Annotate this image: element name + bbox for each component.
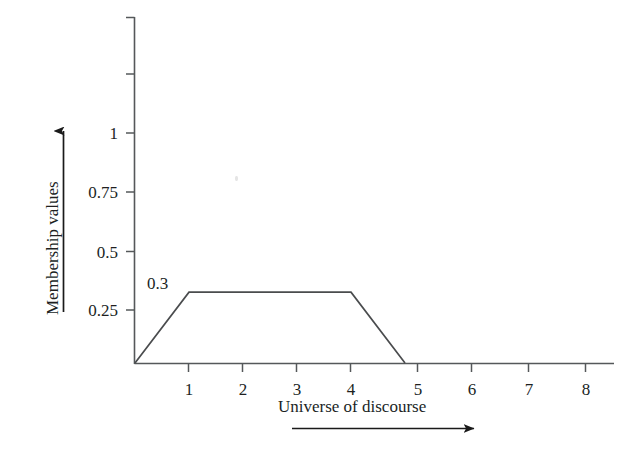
y-axis-ticks [126,18,135,311]
x-tick-label-3: 3 [293,381,302,398]
y-tick-label-0-75: 0.75 [74,184,118,201]
x-axis-ticks [189,364,586,373]
chart-canvas [0,0,644,457]
y-tick-label-0-5: 0.5 [82,244,118,261]
x-tick-label-1: 1 [185,381,194,398]
plateau-value-annotation: 0.3 [147,275,168,292]
x-tick-label-7: 7 [525,381,534,398]
scan-artifact [235,176,238,181]
x-axis [135,364,615,373]
x-axis-title: Universe of discourse [278,398,426,415]
y-axis-title: Membership values [44,181,61,315]
x-tick-label-4: 4 [347,381,356,398]
y-tick-label-0-25: 0.25 [74,302,118,319]
y-axis [126,17,135,364]
x-tick-label-5: 5 [414,381,423,398]
x-tick-label-6: 6 [468,381,477,398]
y-tick-label-1: 1 [98,125,118,142]
x-tick-label-8: 8 [582,381,591,398]
membership-function-curve [135,292,405,363]
x-tick-label-2: 2 [239,381,248,398]
fuzzy-membership-chart: 1 0.75 0.5 0.25 1 2 3 4 5 6 7 8 0.3 Memb… [0,0,644,457]
